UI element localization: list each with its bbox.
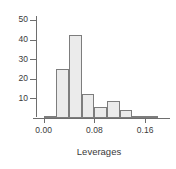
y-axis-tick (30, 79, 36, 80)
histogram-bar (94, 107, 107, 118)
x-axis-tick (94, 118, 95, 123)
y-axis-tick (30, 59, 36, 60)
x-axis-tick (145, 118, 146, 123)
y-axis-tick (30, 20, 36, 21)
y-axis-tick-label: 20 (6, 74, 28, 83)
x-axis-line (33, 118, 170, 119)
histogram-bar (107, 101, 120, 118)
y-axis-tick-label: 10 (6, 94, 28, 103)
x-axis-tick-label: 0.00 (29, 126, 59, 135)
x-axis-tick (44, 118, 45, 123)
histogram-bar (82, 94, 95, 118)
y-axis-tick-label: 50 (6, 15, 28, 24)
y-axis-tick (30, 98, 36, 99)
y-axis-tick-label: 30 (6, 55, 28, 64)
plot-area: 1020304050 0.000.080.16 (0, 0, 176, 169)
histogram-bar (56, 69, 69, 118)
histogram-bar (120, 110, 133, 118)
y-axis-tick-label: 40 (6, 35, 28, 44)
histogram-bar (69, 35, 82, 118)
y-axis-tick (30, 40, 36, 41)
x-axis-tick-label: 0.08 (79, 126, 109, 135)
histogram-figure: 1020304050 0.000.080.16 Leverages (0, 0, 176, 169)
y-axis-line (36, 16, 37, 117)
x-axis-title: Leverages (0, 146, 176, 157)
x-axis-title-text: Leverages (55, 146, 121, 157)
x-axis-tick-label: 0.16 (130, 126, 160, 135)
